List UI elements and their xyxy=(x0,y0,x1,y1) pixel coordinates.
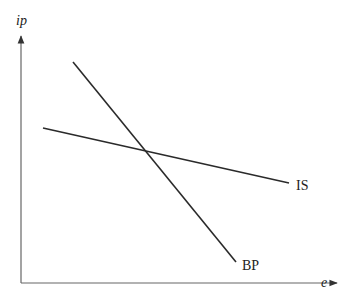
x-axis-label: e xyxy=(321,275,327,290)
bp-curve-label: BP xyxy=(242,258,259,273)
is-bp-diagram: ip e IS BP xyxy=(0,0,345,301)
bp-curve xyxy=(73,62,236,262)
is-curve xyxy=(43,128,289,183)
y-axis-label: ip xyxy=(16,13,27,28)
is-curve-label: IS xyxy=(296,178,308,193)
